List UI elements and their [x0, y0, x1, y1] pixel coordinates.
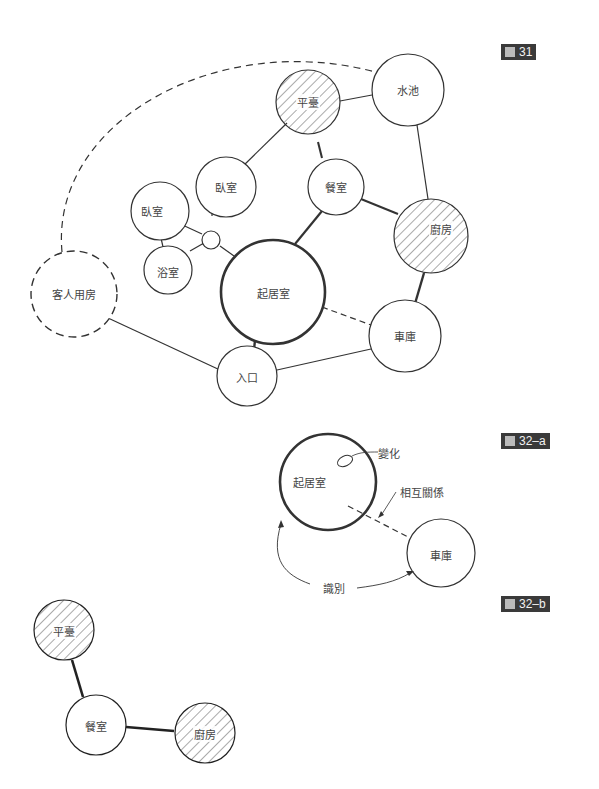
edge-entrance-garage	[277, 349, 371, 370]
label-pond: 水池	[397, 82, 419, 98]
edge-terrace-dining	[318, 142, 322, 158]
identify-arrowhead-left	[278, 520, 284, 528]
node-hub	[202, 231, 220, 249]
figure-icon	[505, 436, 515, 446]
edge-guest-entrance	[108, 318, 220, 370]
label-kitchen-32b: 廚房	[193, 726, 217, 742]
label-entrance: 入口	[236, 369, 258, 385]
edge-living-garage	[322, 307, 371, 325]
label-terrace-32b: 平臺	[52, 623, 76, 639]
label-living: 起居室	[257, 285, 290, 301]
edge-pond-kitchen	[417, 125, 428, 199]
label-bedroom-upper: 臥室	[215, 179, 237, 195]
label-kitchen: 廚房	[429, 221, 453, 237]
edge-hub-living	[220, 246, 234, 256]
edge-dining-kitchen-32b	[126, 727, 174, 731]
annotation-relation: 相互關係	[400, 484, 444, 500]
label-dining-32b: 餐室	[85, 718, 107, 734]
bubble-diagram-canvas	[0, 0, 599, 789]
fig32a	[277, 434, 475, 588]
identify-arrow-right	[357, 573, 410, 588]
edge-bedroom2-terrace	[241, 123, 287, 168]
edge-dining-kitchen	[356, 197, 398, 214]
label-guest: 客人用房	[52, 286, 96, 302]
edge-terrace-dining-32b	[72, 660, 83, 697]
figure-icon	[505, 599, 515, 609]
label-garage-32a: 車庫	[430, 547, 452, 563]
identify-arrowhead-right	[406, 571, 414, 576]
annotation-identify: 識別	[323, 580, 345, 596]
figure-label-32b: 32–b	[501, 596, 550, 612]
relation-line	[348, 506, 410, 538]
label-bedroom-left: 臥室	[141, 203, 163, 219]
edge-terrace-pond	[340, 95, 372, 101]
annotation-change: 變化	[378, 445, 400, 461]
edge-bath-hub	[190, 243, 204, 251]
label-garage: 車庫	[394, 328, 416, 344]
label-dining: 餐室	[325, 179, 347, 195]
fig31-nodes	[31, 54, 468, 406]
identify-arrow-left	[277, 524, 310, 584]
label-bath: 浴室	[157, 264, 179, 280]
edge-dining-living	[295, 211, 322, 244]
figure-label-31: 31	[501, 44, 536, 60]
relation-leader	[382, 492, 396, 514]
label-living-32a: 起居室	[293, 474, 326, 490]
figure-icon	[505, 47, 515, 57]
label-terrace: 平臺	[296, 94, 320, 110]
figure-label-32a: 32–a	[501, 433, 550, 449]
